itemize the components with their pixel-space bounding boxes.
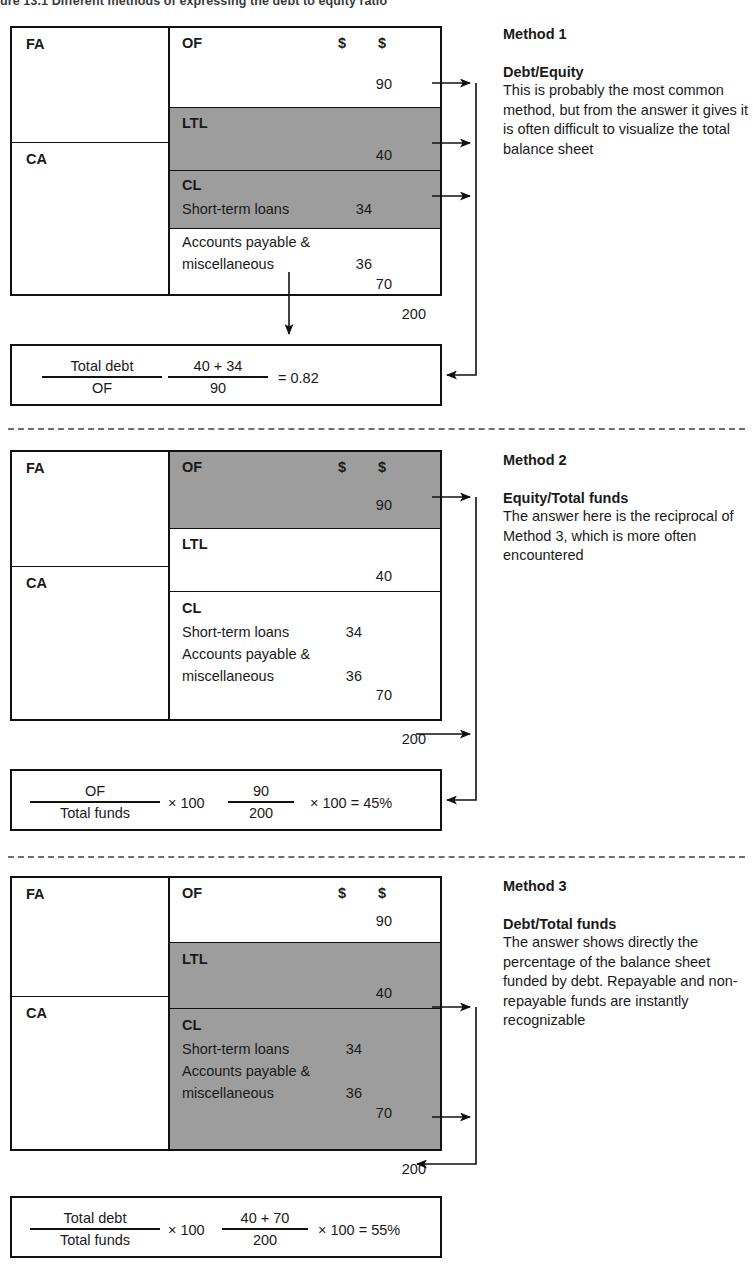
fixed-assets-cell-m1: FA	[12, 28, 168, 143]
formula-denominator-2-m2: 200	[228, 804, 294, 821]
dollar-sign-2: $	[378, 885, 386, 901]
formula-fraction-1-m1: Total debt OF	[42, 358, 162, 396]
dollar-sign-1: $	[338, 459, 346, 475]
accounts-payable-segment-m1: Accounts payable & miscellaneous 36 70	[170, 228, 440, 294]
formula-box-m1: Total debt OF 40 + 34 90 = 0.82	[10, 344, 442, 406]
accounts-payable-line-2: miscellaneous	[182, 256, 274, 272]
dollar-sign-1: $	[338, 885, 346, 901]
dollar-sign-1: $	[338, 35, 346, 51]
formula-numerator-1-m1: Total debt	[42, 358, 162, 375]
owners-funds-value: 90	[350, 76, 392, 92]
owners-funds-segment-m1: OF $ $ 90	[170, 28, 440, 107]
current-assets-cell-m1: CA	[12, 143, 168, 294]
owners-funds-label: OF	[182, 459, 202, 475]
ltl-value: 40	[350, 147, 392, 163]
long-term-liabilities-segment-m2: LTL 40	[170, 528, 440, 591]
current-assets-cell-m2: CA	[12, 567, 168, 719]
assets-column-m3: FA CA	[12, 878, 170, 1149]
method-1-body: This is probably the most common method,…	[503, 81, 748, 159]
accounts-payable-line-1: Accounts payable &	[182, 234, 310, 250]
dollar-sign-2: $	[378, 459, 386, 475]
assets-column-m1: FA CA	[12, 28, 170, 294]
cl-label: CL	[182, 177, 201, 193]
formula-box-m3: Total debt Total funds × 100 40 + 70 200…	[10, 1196, 442, 1258]
formula-fraction-2-m3: 40 + 70 200	[222, 1210, 308, 1248]
formula-fraction-2-m2: 90 200	[228, 783, 294, 821]
current-assets-label: CA	[26, 1005, 47, 1021]
method-3-subtitle: Debt/Total funds	[503, 916, 748, 932]
formula-numerator-2-m2: 90	[228, 783, 294, 800]
ltl-value: 40	[350, 568, 392, 584]
owners-funds-value: 90	[350, 497, 392, 513]
formula-numerator-2-m1: 40 + 34	[168, 358, 268, 375]
balance-sheet-m3: FA CA OF $ $ 90 LTL 40 CL Short-term loa	[10, 876, 442, 1151]
long-term-liabilities-segment-m1: LTL 40	[170, 107, 440, 170]
formula-fraction-1-m2: OF Total funds	[30, 783, 160, 821]
current-liabilities-segment-m2: CL Short-term loans 34 Accounts payable …	[170, 591, 440, 719]
section-divider-2	[8, 856, 745, 858]
funding-column-m1: OF $ $ 90 LTL 40 CL Short-term loans 34 …	[170, 28, 440, 294]
accounts-payable-value: 36	[320, 1085, 362, 1101]
formula-multiplier-m2: × 100	[168, 795, 205, 811]
current-liabilities-segment-m3: CL Short-term loans 34 Accounts payable …	[170, 1008, 440, 1149]
fraction-bar	[222, 1228, 308, 1230]
current-assets-label: CA	[26, 151, 47, 167]
balance-sheet-m1: FA CA OF $ $ 90 LTL 40 CL Short-term loa	[10, 26, 442, 296]
formula-fraction-1-m3: Total debt Total funds	[30, 1210, 160, 1248]
ltl-value: 40	[350, 985, 392, 1001]
owners-funds-label: OF	[182, 885, 202, 901]
short-term-loans-value: 34	[320, 1041, 362, 1057]
fixed-assets-label: FA	[26, 886, 45, 902]
short-term-loans-value: 34	[330, 201, 372, 217]
fraction-bar	[30, 1228, 160, 1230]
cl-label: CL	[182, 1017, 201, 1033]
method-3-text-column: Method 3 Debt/Total funds The answer sho…	[503, 878, 748, 1031]
fraction-bar	[30, 801, 160, 803]
formula-box-m2: OF Total funds × 100 90 200 × 100 = 45%	[10, 769, 442, 831]
formula-denominator-2-m3: 200	[222, 1231, 308, 1248]
formula-denominator-1-m3: Total funds	[30, 1231, 160, 1248]
method-2-subtitle: Equity/Total funds	[503, 490, 748, 506]
current-assets-label: CA	[26, 575, 47, 591]
ltl-label: LTL	[182, 951, 208, 967]
cl-total-value: 70	[350, 1105, 392, 1121]
formula-fraction-2-m1: 40 + 34 90	[168, 358, 268, 396]
cl-label: CL	[182, 600, 201, 616]
formula-denominator-2-m1: 90	[168, 379, 268, 396]
short-term-loans-label: Short-term loans	[182, 201, 289, 217]
figure-caption: ure 13.1 Different methods of expressing…	[0, 0, 753, 8]
formula-result-m3: × 100 = 55%	[318, 1222, 400, 1238]
formula-multiplier-m3: × 100	[168, 1222, 205, 1238]
fixed-assets-cell-m2: FA	[12, 452, 168, 567]
accounts-payable-line-1: Accounts payable &	[182, 646, 310, 662]
formula-result-m2: × 100 = 45%	[310, 795, 392, 811]
fraction-bar	[168, 376, 268, 378]
fraction-bar	[228, 801, 294, 803]
accounts-payable-line-1: Accounts payable &	[182, 1063, 310, 1079]
short-term-loans-label: Short-term loans	[182, 1041, 289, 1057]
method-3-title: Method 3	[503, 878, 748, 894]
fixed-assets-label: FA	[26, 36, 45, 52]
formula-numerator-1-m2: OF	[30, 783, 160, 800]
cl-total-value: 70	[350, 276, 392, 292]
method-2-body: The answer here is the reciprocal of Met…	[503, 507, 748, 566]
fixed-assets-label: FA	[26, 460, 45, 476]
owners-funds-value: 90	[350, 913, 392, 929]
accounts-payable-value: 36	[320, 668, 362, 684]
method-2-title: Method 2	[503, 452, 748, 468]
short-term-loans-value: 34	[320, 624, 362, 640]
owners-funds-segment-m2: OF $ $ 90	[170, 452, 440, 528]
funding-column-m2: OF $ $ 90 LTL 40 CL Short-term loans 34 …	[170, 452, 440, 719]
long-term-liabilities-segment-m3: LTL 40	[170, 942, 440, 1008]
fraction-bar	[42, 376, 162, 378]
formula-denominator-1-m1: OF	[42, 379, 162, 396]
method-1-subtitle: Debt/Equity	[503, 64, 748, 80]
fixed-assets-cell-m3: FA	[12, 878, 168, 997]
dollar-sign-2: $	[378, 35, 386, 51]
short-term-loans-label: Short-term loans	[182, 624, 289, 640]
method-1-title: Method 1	[503, 26, 748, 42]
method-1-text-column: Method 1 Debt/Equity This is probably th…	[503, 26, 748, 159]
grand-total-m1: 200	[386, 306, 426, 322]
grand-total-m2: 200	[386, 731, 426, 747]
current-liabilities-segment-m1: CL Short-term loans 34	[170, 170, 440, 228]
